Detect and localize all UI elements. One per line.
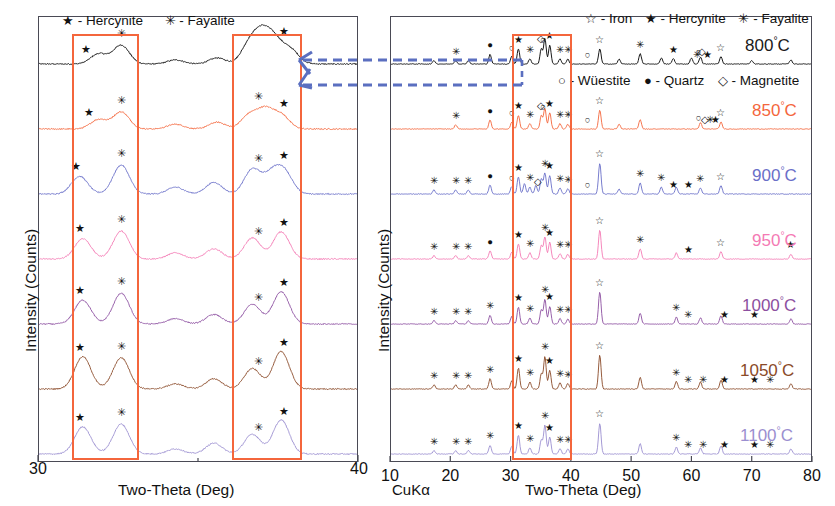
xrd-figure: Intensity (Counts) Two-Theta (Deg) 30 40… <box>0 0 835 506</box>
zoom-connector-arrows <box>0 0 835 506</box>
